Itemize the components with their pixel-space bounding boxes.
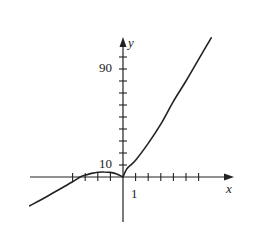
y-axis-label: y	[126, 35, 134, 50]
function-curve	[30, 38, 211, 206]
y-tick-label-10: 10	[99, 156, 112, 171]
y-axis	[119, 37, 127, 222]
x-tick-label-1: 1	[131, 186, 138, 201]
y-axis-arrow-icon	[120, 37, 127, 47]
x-axis-label: x	[225, 181, 232, 196]
x-axis-arrow-icon	[224, 174, 234, 181]
x-axis	[30, 173, 234, 181]
function-graph: y x 90 10 1	[0, 0, 266, 246]
y-tick-label-90: 90	[99, 60, 112, 75]
